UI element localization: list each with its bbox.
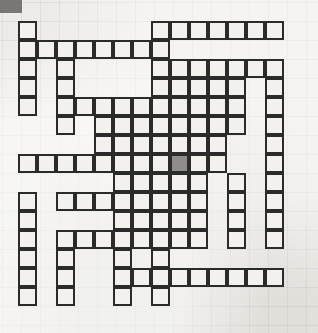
crossword-cell[interactable] — [18, 230, 37, 249]
crossword-cell[interactable] — [189, 21, 208, 40]
crossword-cell[interactable] — [208, 97, 227, 116]
crossword-cell[interactable] — [227, 211, 246, 230]
crossword-cell[interactable] — [265, 135, 284, 154]
crossword-cell[interactable] — [189, 230, 208, 249]
crossword-cell[interactable] — [189, 154, 208, 173]
crossword-cell[interactable] — [56, 192, 75, 211]
crossword-cell[interactable] — [170, 192, 189, 211]
crossword-cell[interactable] — [246, 21, 265, 40]
crossword-cell[interactable] — [94, 192, 113, 211]
crossword-cell[interactable] — [246, 268, 265, 287]
crossword-cell[interactable] — [113, 173, 132, 192]
crossword-cell[interactable] — [151, 154, 170, 173]
crossword-cell[interactable] — [151, 173, 170, 192]
crossword-cell[interactable] — [94, 40, 113, 59]
crossword-cell[interactable] — [151, 135, 170, 154]
crossword-cell[interactable] — [227, 97, 246, 116]
crossword-cell[interactable] — [18, 78, 37, 97]
crossword-cell[interactable] — [113, 97, 132, 116]
crossword-cell[interactable] — [189, 116, 208, 135]
crossword-cell[interactable] — [37, 40, 56, 59]
crossword-cell[interactable] — [208, 21, 227, 40]
crossword-cell[interactable] — [132, 154, 151, 173]
crossword-cell[interactable] — [94, 154, 113, 173]
crossword-cell[interactable] — [56, 154, 75, 173]
crossword-cell[interactable] — [56, 116, 75, 135]
crossword-cell[interactable] — [170, 21, 189, 40]
crossword-cell[interactable] — [18, 268, 37, 287]
crossword-cell[interactable] — [170, 268, 189, 287]
crossword-cell[interactable] — [75, 192, 94, 211]
crossword-cell[interactable] — [265, 230, 284, 249]
crossword-cell[interactable] — [94, 97, 113, 116]
crossword-grid[interactable] — [0, 0, 318, 333]
crossword-cell[interactable] — [189, 135, 208, 154]
crossword-cell[interactable] — [227, 78, 246, 97]
crossword-cell[interactable] — [132, 173, 151, 192]
crossword-cell[interactable] — [94, 135, 113, 154]
crossword-cell[interactable] — [56, 97, 75, 116]
crossword-cell[interactable] — [265, 97, 284, 116]
crossword-cell[interactable] — [132, 192, 151, 211]
crossword-cell[interactable] — [151, 59, 170, 78]
crossword-cell[interactable] — [265, 173, 284, 192]
crossword-cell[interactable] — [170, 97, 189, 116]
crossword-cell[interactable] — [18, 59, 37, 78]
crossword-cell[interactable] — [75, 230, 94, 249]
crossword-cell[interactable] — [170, 230, 189, 249]
crossword-cell[interactable] — [227, 59, 246, 78]
crossword-cell[interactable] — [151, 287, 170, 306]
crossword-cell[interactable] — [18, 249, 37, 268]
crossword-cell[interactable] — [170, 59, 189, 78]
crossword-cell[interactable] — [113, 211, 132, 230]
crossword-cell[interactable] — [189, 78, 208, 97]
crossword-cell[interactable] — [18, 192, 37, 211]
crossword-cell[interactable] — [189, 59, 208, 78]
crossword-cell[interactable] — [56, 249, 75, 268]
crossword-cell[interactable] — [151, 268, 170, 287]
crossword-cell[interactable] — [75, 154, 94, 173]
crossword-cell[interactable] — [265, 21, 284, 40]
crossword-cell[interactable] — [151, 21, 170, 40]
crossword-cell[interactable] — [56, 59, 75, 78]
crossword-cell[interactable] — [18, 40, 37, 59]
crossword-cell[interactable] — [265, 192, 284, 211]
crossword-cell[interactable] — [189, 211, 208, 230]
crossword-cell[interactable] — [189, 97, 208, 116]
crossword-cell[interactable] — [170, 135, 189, 154]
crossword-cell[interactable] — [113, 116, 132, 135]
crossword-cell[interactable] — [265, 211, 284, 230]
crossword-cell[interactable] — [151, 40, 170, 59]
crossword-cell[interactable] — [227, 268, 246, 287]
crossword-cell-shaded[interactable] — [170, 154, 189, 173]
crossword-cell[interactable] — [265, 268, 284, 287]
crossword-cell[interactable] — [132, 230, 151, 249]
crossword-cell[interactable] — [227, 230, 246, 249]
crossword-cell[interactable] — [75, 97, 94, 116]
crossword-cell[interactable] — [151, 211, 170, 230]
crossword-cell[interactable] — [151, 249, 170, 268]
crossword-cell[interactable] — [265, 116, 284, 135]
crossword-cell[interactable] — [208, 135, 227, 154]
crossword-cell[interactable] — [37, 154, 56, 173]
crossword-cell[interactable] — [151, 116, 170, 135]
crossword-cell[interactable] — [151, 78, 170, 97]
crossword-cell[interactable] — [132, 135, 151, 154]
crossword-cell[interactable] — [18, 97, 37, 116]
crossword-cell[interactable] — [94, 116, 113, 135]
crossword-cell[interactable] — [94, 230, 113, 249]
crossword-cell[interactable] — [113, 268, 132, 287]
crossword-cell[interactable] — [151, 230, 170, 249]
crossword-cell[interactable] — [132, 211, 151, 230]
crossword-cell[interactable] — [113, 154, 132, 173]
crossword-cell[interactable] — [113, 230, 132, 249]
crossword-cell[interactable] — [189, 192, 208, 211]
crossword-cell[interactable] — [132, 268, 151, 287]
crossword-cell[interactable] — [56, 268, 75, 287]
crossword-cell[interactable] — [18, 21, 37, 40]
crossword-cell[interactable] — [18, 211, 37, 230]
crossword-cell[interactable] — [208, 154, 227, 173]
crossword-cell[interactable] — [189, 268, 208, 287]
crossword-cell[interactable] — [151, 97, 170, 116]
crossword-cell[interactable] — [170, 211, 189, 230]
